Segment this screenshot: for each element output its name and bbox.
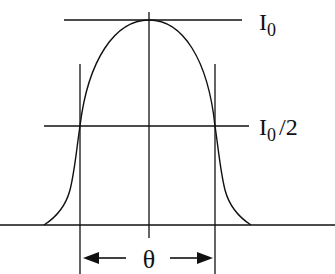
intensity-curve [44,20,251,225]
arrow-left-icon [83,252,99,264]
diagram-canvas: θ I0 I0/2 [0,0,335,274]
half-max-label: I0/2 [259,114,298,145]
intensity-diagram: θ I0 I0/2 [0,0,335,274]
peak-label: I0 [259,9,276,40]
arrow-right-icon [197,252,213,264]
width-label: θ [143,245,155,274]
